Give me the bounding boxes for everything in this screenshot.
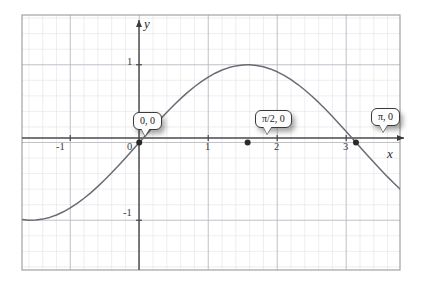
callout-tail-icon: [263, 126, 272, 134]
callout-pi-label: π, 0: [378, 111, 393, 122]
callout-pi[interactable]: π, 0: [371, 108, 400, 126]
callout-tail-icon: [379, 124, 388, 132]
y-axis-label: y: [144, 16, 150, 32]
x-axis-label: x: [387, 146, 393, 162]
x-tick-label-0: 0: [127, 141, 132, 152]
callout-origin[interactable]: 0, 0: [133, 112, 162, 130]
graph-figure: -1 0 1 2 3 1 -1 x y 0, 0 π/2, 0 π, 0: [0, 0, 422, 290]
callout-tail-icon: [141, 128, 150, 136]
callout-half-pi-label: π/2, 0: [262, 113, 285, 124]
x-tick-label-2: 2: [274, 141, 279, 152]
x-tick-label-neg1: -1: [56, 141, 65, 152]
y-tick-label-1: 1: [127, 56, 132, 67]
y-tick-label-neg1: -1: [123, 207, 132, 218]
x-tick-label-1: 1: [205, 141, 210, 152]
callout-origin-label: 0, 0: [140, 115, 155, 126]
x-tick-label-3: 3: [343, 141, 348, 152]
callout-half-pi[interactable]: π/2, 0: [255, 110, 292, 128]
